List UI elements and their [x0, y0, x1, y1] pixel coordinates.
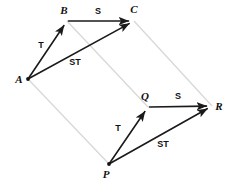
vertex-label-b: B: [59, 4, 67, 16]
vertex-label-a: A: [14, 73, 22, 85]
edge-label-b-c: S: [95, 6, 101, 16]
edge-label-a-c: ST: [69, 57, 81, 67]
diagram-canvas: TSSTTSST ABCPQR: [0, 0, 236, 182]
arrow-p-to-r: [110, 109, 207, 164]
edge-labels-group: TSSTTSST: [38, 6, 181, 149]
vertex-dot-p: [107, 162, 111, 166]
vertex-label-c: C: [130, 3, 138, 15]
vertex-label-r: R: [214, 100, 222, 112]
guide-lines-group: [28, 21, 212, 164]
edge-label-q-r: S: [175, 91, 181, 101]
vertex-dot-a: [26, 77, 30, 81]
edge-label-a-b: T: [38, 40, 44, 50]
edge-label-p-q: T: [115, 123, 121, 133]
arrow-p-to-q: [110, 112, 145, 163]
guide-line-a-p: [28, 79, 109, 164]
arrow-q-to-r: [149, 106, 206, 107]
vertex-label-q: Q: [141, 90, 149, 102]
arrow-a-to-b: [29, 26, 64, 78]
commutative-diagram: TSSTTSST ABCPQR: [0, 0, 236, 182]
arrow-a-to-c: [29, 24, 129, 79]
edge-label-p-r: ST: [157, 139, 169, 149]
vertex-label-p: P: [103, 168, 110, 180]
